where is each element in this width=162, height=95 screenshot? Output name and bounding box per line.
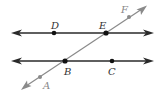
geometry-diagram: D E F B C A (0, 0, 162, 95)
arrowhead-up-right-icon (137, 6, 148, 16)
label-A: A (42, 80, 50, 91)
label-F: F (120, 4, 129, 15)
label-C: C (108, 66, 116, 77)
label-D: D (50, 20, 59, 31)
point-E (103, 30, 108, 35)
point-D (52, 31, 57, 36)
label-E: E (98, 20, 107, 31)
point-B (62, 58, 67, 63)
point-A (38, 75, 42, 79)
point-C (110, 59, 115, 64)
label-B: B (63, 66, 71, 77)
arrowhead-down-left-icon (21, 81, 32, 91)
point-F (127, 15, 131, 19)
parallel-line-bottom (11, 58, 154, 65)
parallel-line-top (11, 30, 154, 37)
